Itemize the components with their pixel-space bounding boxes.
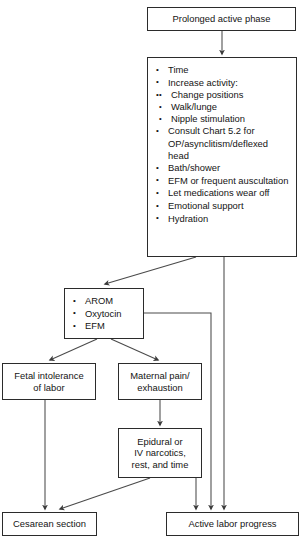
node-cesarean-section-label: Cesarean section [10, 518, 89, 530]
list-item: Nipple stimulation [154, 113, 291, 125]
node-prolonged-active-phase-label: Prolonged active phase [170, 13, 274, 25]
flowchart-canvas: Prolonged active phase Time Increase act… [0, 0, 303, 543]
edge-interventions-to-arom [105, 257, 196, 284]
list-item: Emotional support [154, 200, 291, 212]
list-item: Walk/lunge [154, 101, 291, 113]
node-epidural-iv-narcotics[interactable]: Epidural or IV narcotics, rest, and time [118, 428, 202, 478]
list-item: Oxytocin [71, 308, 138, 320]
node-active-labor-progress-label: Active labor progress [185, 518, 279, 530]
list-item: Consult Chart 5.2 for OP/asynclitism/def… [154, 125, 291, 161]
list-item: Let medications wear off [154, 187, 291, 199]
edge-arom-to-active [144, 313, 211, 509]
node-fetal-intolerance-label: Fetal intolerance of labor [11, 370, 86, 393]
list-item: AROM [71, 295, 138, 307]
interventions-bullet-list: Time Increase activity: Change positions… [154, 64, 291, 225]
list-item: EFM or frequent auscultation [154, 175, 291, 187]
list-item: EFM [71, 320, 138, 332]
node-interventions[interactable]: Time Increase activity: Change positions… [147, 57, 297, 257]
list-item: Hydration [154, 213, 291, 225]
nested-list-wrapper: Change positions Walk/lunge Nipple stimu… [154, 89, 291, 125]
node-maternal-pain-exhaustion[interactable]: Maternal pain/ exhaustion [118, 363, 202, 400]
edge-arom-to-fetal [50, 339, 97, 360]
node-maternal-pain-label: Maternal pain/ exhaustion [127, 370, 192, 393]
list-item: Increase activity: [154, 77, 291, 89]
list-item: Time [154, 64, 291, 76]
node-cesarean-section[interactable]: Cesarean section [2, 512, 97, 536]
edge-epidural-to-cesarean [60, 478, 150, 509]
node-prolonged-active-phase[interactable]: Prolonged active phase [147, 7, 296, 31]
node-fetal-intolerance-of-labor[interactable]: Fetal intolerance of labor [2, 363, 96, 400]
edge-arom-to-maternal [111, 339, 158, 360]
arom-bullet-list: AROM Oxytocin EFM [71, 295, 138, 332]
node-epidural-label: Epidural or IV narcotics, rest, and time [129, 436, 192, 471]
list-item: Change positions [154, 89, 291, 101]
list-item: Bath/shower [154, 162, 291, 174]
increase-activity-sublist: Change positions Walk/lunge Nipple stimu… [154, 89, 291, 125]
node-active-labor-progress[interactable]: Active labor progress [166, 512, 299, 536]
node-arom-oxytocin-efm[interactable]: AROM Oxytocin EFM [64, 288, 144, 339]
